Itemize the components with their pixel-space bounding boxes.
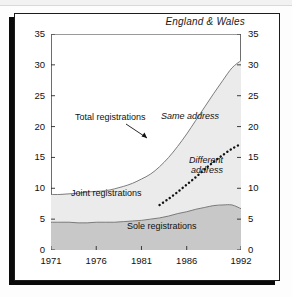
- x-axis-label-1986: 1986: [167, 255, 207, 266]
- y-axis-label-right-20: 20: [248, 121, 270, 132]
- annotation-sole-registrations: Sole registrations: [127, 222, 197, 232]
- chart-svg: [51, 34, 241, 250]
- y-axis-label-left-25: 25: [23, 90, 45, 101]
- y-axis-label-right-35: 35: [248, 28, 270, 39]
- x-axis-label-1981: 1981: [122, 255, 162, 266]
- y-axis-label-right-5: 5: [248, 213, 270, 224]
- x-axis-label-1971: 1971: [31, 255, 71, 266]
- x-axis-label-1992: 1992: [221, 255, 261, 266]
- annotation-different-address-line2: address: [191, 165, 223, 175]
- chart-title: England & Wales: [165, 16, 245, 27]
- chart-plate: England & Wales 35 30 25 20 15 10 5 0 35…: [14, 13, 280, 281]
- y-axis-label-left-20: 20: [23, 121, 45, 132]
- plot-area: Total registrations Same address Differe…: [51, 34, 241, 250]
- title-band: England & Wales: [15, 14, 279, 32]
- y-axis-label-left-30: 30: [23, 59, 45, 70]
- y-axis-label-left-5: 5: [23, 213, 45, 224]
- annotation-total-registrations: Total registrations: [75, 113, 146, 123]
- y-axis-label-right-25: 25: [248, 90, 270, 101]
- y-axis-label-right-10: 10: [248, 182, 270, 193]
- y-axis-label-left-15: 15: [23, 151, 45, 162]
- y-axis-label-left-0: 0: [23, 244, 45, 255]
- y-axis-label-right-15: 15: [248, 151, 270, 162]
- top-band-divider: [0, 5, 292, 6]
- y-axis-label-left-35: 35: [23, 28, 45, 39]
- x-axis-label-1976: 1976: [76, 255, 116, 266]
- y-axis-label-left-10: 10: [23, 182, 45, 193]
- y-axis-label-right-0: 0: [248, 244, 270, 255]
- annotation-same-address: Same address: [161, 112, 219, 122]
- annotation-different-address: Different address: [175, 156, 223, 175]
- annotation-different-address-line1: Different: [189, 155, 223, 165]
- y-axis-label-right-30: 30: [248, 59, 270, 70]
- chart-figure: England & Wales 35 30 25 20 15 10 5 0 35…: [0, 0, 292, 297]
- annotation-joint-registrations: Joint registrations: [71, 189, 142, 199]
